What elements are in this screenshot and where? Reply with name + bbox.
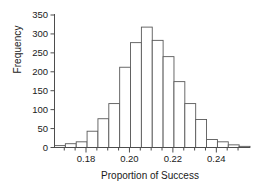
histogram-bars: [55, 27, 251, 147]
y-axis-label: Frequency: [12, 0, 23, 105]
x-axis-tick-label: 0.24: [199, 153, 233, 164]
histogram-bar: [120, 67, 131, 147]
y-axis-tick-label: 250: [22, 48, 48, 58]
y-axis-tick-label: 350: [22, 10, 48, 20]
histogram-bar: [141, 27, 152, 147]
histogram-bar: [196, 119, 207, 147]
histogram-bar: [217, 142, 228, 148]
histogram-bar: [98, 119, 109, 148]
x-axis-label: Proportion of Success: [52, 170, 248, 181]
x-axis-tick-label: 0.20: [112, 153, 146, 164]
y-axis-tick-labels: 050100150200250300350: [18, 0, 48, 160]
histogram-bar: [163, 57, 174, 148]
y-axis-tick-label: 50: [22, 124, 48, 134]
histogram-bar: [174, 82, 185, 148]
histogram-bar: [131, 43, 142, 148]
y-axis-tick-label: 300: [22, 29, 48, 39]
y-axis-tick-label: 100: [22, 105, 48, 115]
histogram-bar: [76, 142, 87, 148]
x-axis-tick-label: 0.18: [69, 153, 103, 164]
y-axis-tick-label: 200: [22, 67, 48, 77]
x-axis-tick-label: 0.22: [156, 153, 190, 164]
y-axis-ticks: [51, 15, 55, 148]
histogram-bar: [87, 131, 98, 147]
histogram-bar: [152, 40, 163, 147]
histogram-bar: [207, 140, 218, 148]
histogram-bar: [185, 104, 196, 148]
histogram-figure: 050100150200250300350 Frequency Proporti…: [0, 0, 256, 193]
histogram-bar: [109, 104, 120, 148]
y-axis-tick-label: 150: [22, 86, 48, 96]
x-axis-ticks: [64, 148, 238, 153]
y-axis-tick-label: 0: [22, 143, 48, 153]
histogram-bar: [65, 144, 76, 148]
